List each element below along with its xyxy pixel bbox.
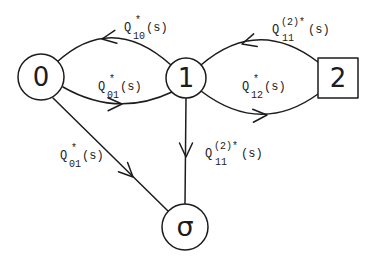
node-sigma: σ — [162, 204, 208, 250]
node-2: 2 — [318, 58, 358, 98]
node-0: 0 — [18, 54, 64, 100]
node-1-label: 1 — [178, 63, 195, 93]
state-transition-diagram: Q * 10 (s) Q * 01 (s) Q (2)* 11 (s) Q * … — [0, 0, 374, 264]
edge-label-1-to-0: Q * 10 (s) — [124, 13, 168, 43]
node-2-label: 2 — [330, 63, 347, 93]
edge-label-0-to-1: Q * 01 (s) — [98, 72, 142, 102]
node-0-label: 0 — [33, 62, 50, 92]
edge-label-1-to-2: Q * 12 (s) — [242, 72, 286, 102]
arrowhead-1-to-2 — [253, 109, 268, 123]
edge-label-1-to-sigma: Q (2)* 11 (s) — [205, 139, 263, 169]
edge-1-to-sigma-line — [185, 98, 186, 204]
edge-label-0-to-sigma: Q * 01 (s) — [60, 141, 104, 171]
node-1: 1 — [166, 58, 206, 98]
diagram-canvas: Q * 10 (s) Q * 01 (s) Q (2)* 11 (s) Q * … — [0, 0, 374, 264]
edge-label-2-to-1: Q (2)* 11 (s) — [272, 15, 330, 45]
node-sigma-label: σ — [176, 211, 193, 242]
